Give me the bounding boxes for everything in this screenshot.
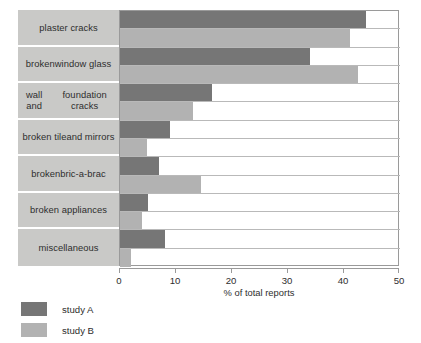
category-label-line: bric-a-brac	[60, 168, 105, 180]
category-label-line: wall and	[18, 89, 50, 112]
category-label-line: miscellaneous	[38, 242, 98, 254]
bar-study-a	[120, 121, 170, 138]
bar-row	[120, 102, 400, 120]
legend-item: study A	[21, 301, 94, 317]
category-label-line: broken	[26, 58, 55, 70]
x-axis-tick	[175, 268, 176, 273]
bar-study-b	[120, 249, 131, 267]
plot-area	[119, 10, 399, 266]
bar-study-b	[120, 66, 358, 83]
bar-row	[120, 176, 400, 194]
bar-study-a	[120, 11, 366, 28]
x-axis-tick	[398, 268, 399, 273]
legend-swatch	[21, 323, 47, 337]
category-label-panel: plaster cracksbrokenwindow glasswall and…	[18, 10, 119, 266]
bar-study-a	[120, 194, 148, 211]
category-label-line: broken tile	[23, 131, 67, 143]
x-axis-tick-label: 50	[394, 275, 405, 286]
category-label: plaster cracks	[18, 10, 119, 47]
bar-study-b	[120, 212, 142, 229]
x-axis-title: % of total reports	[119, 287, 399, 298]
category-label-line: window glass	[55, 58, 111, 70]
category-label: broken appliances	[18, 193, 119, 230]
x-axis-tick	[343, 268, 344, 273]
bar-study-b	[120, 29, 350, 46]
legend-label: study B	[62, 325, 94, 336]
grouped-bar-chart: plaster cracksbrokenwindow glasswall and…	[0, 0, 421, 343]
bar-row	[120, 29, 400, 47]
x-axis-tick	[287, 268, 288, 273]
x-axis: 01020304050	[119, 268, 399, 269]
bar-row	[120, 139, 400, 157]
bar-study-a	[120, 157, 159, 174]
category-label: wall andfoundation cracks	[18, 83, 119, 120]
x-axis-tick	[231, 268, 232, 273]
category-label-line: broken	[31, 168, 60, 180]
bar-study-b	[120, 139, 147, 156]
bar-row	[120, 84, 400, 102]
legend-label: study A	[62, 304, 93, 315]
x-axis-tick-label: 0	[116, 275, 121, 286]
bar-study-a	[120, 84, 212, 101]
category-label: broken tileand mirrors	[18, 120, 119, 157]
chart-legend: study Astudy B	[21, 301, 94, 343]
bar-row	[120, 121, 400, 139]
x-axis-tick-label: 10	[170, 275, 181, 286]
bar-row	[120, 48, 400, 66]
x-axis-tick-label: 40	[338, 275, 349, 286]
bar-study-b	[120, 102, 193, 119]
bar-row	[120, 212, 400, 230]
legend-swatch	[21, 302, 47, 316]
bar-row	[120, 11, 400, 29]
bar-study-b	[120, 176, 201, 193]
category-label: brokenwindow glass	[18, 47, 119, 84]
bar-study-a	[120, 48, 310, 65]
category-label-line: broken appliances	[30, 204, 107, 216]
category-label-line: and mirrors	[66, 131, 114, 143]
bar-row	[120, 66, 400, 84]
bar-row	[120, 194, 400, 212]
legend-item: study B	[21, 322, 94, 338]
bar-study-a	[120, 230, 165, 247]
x-axis-tick-label: 30	[282, 275, 293, 286]
category-label-line: plaster cracks	[39, 22, 98, 34]
bar-row	[120, 230, 400, 248]
category-label: brokenbric-a-brac	[18, 156, 119, 193]
x-axis-tick	[119, 268, 120, 273]
category-label-line: foundation cracks	[50, 89, 119, 112]
bar-row	[120, 157, 400, 175]
category-label: miscellaneous	[18, 229, 119, 266]
bar-row	[120, 249, 400, 267]
x-axis-tick-label: 20	[226, 275, 237, 286]
